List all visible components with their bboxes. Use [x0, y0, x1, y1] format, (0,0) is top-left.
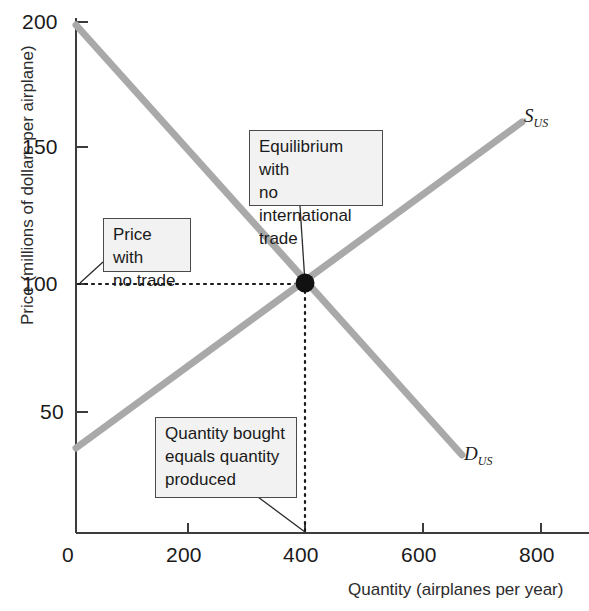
y-axis-ticks — [76, 22, 88, 412]
x-tick-label-800: 800 — [519, 543, 555, 567]
callout-equilibrium-line-3: trade — [259, 228, 374, 251]
y-tick-label-50: 50 — [40, 400, 64, 424]
chart-canvas — [0, 0, 589, 611]
supply-curve-label-sub: US — [534, 116, 549, 130]
callout-quantity-line-2: equals quantity — [165, 446, 288, 469]
quantity-callout-leader-line — [258, 497, 305, 532]
x-axis-title: Quantity (airplanes per year) — [348, 580, 563, 600]
callout-price-line-1: Price with — [113, 224, 182, 270]
x-tick-label-600: 600 — [401, 543, 437, 567]
callout-quantity-line-1: Quantity bought — [165, 423, 288, 446]
equilibrium-point-marker — [296, 274, 315, 293]
callout-quantity-line-3: produced — [165, 469, 288, 492]
price-callout-leader-line — [80, 262, 103, 283]
callout-equilibrium-line-2: no international — [259, 182, 374, 228]
callout-price-with-no-trade: Price with no trade — [103, 218, 191, 272]
supply-demand-chart: 200 150 100 50 0 200 400 600 800 Price (… — [0, 0, 589, 611]
x-tick-label-200: 200 — [166, 543, 202, 567]
demand-curve-label: DUS — [464, 443, 492, 469]
callout-quantity-bought-equals-produced: Quantity bought equals quantity produced — [155, 417, 297, 498]
y-tick-label-200: 200 — [22, 10, 58, 34]
callout-price-line-2: no trade — [113, 270, 182, 293]
y-axis-title: Price (millions of dollars per airplane) — [18, 45, 38, 325]
supply-curve-label-base: S — [524, 105, 534, 126]
callout-equilibrium-line-1: Equilibrium with — [259, 136, 374, 182]
x-tick-label-0: 0 — [62, 543, 74, 567]
x-tick-label-400: 400 — [283, 543, 319, 567]
callout-equilibrium-no-international-trade: Equilibrium with no international trade — [249, 130, 383, 206]
supply-curve-label: SUS — [524, 105, 548, 131]
demand-curve-label-sub: US — [478, 454, 493, 468]
demand-curve-label-base: D — [464, 443, 478, 464]
x-axis-ticks — [188, 523, 541, 533]
